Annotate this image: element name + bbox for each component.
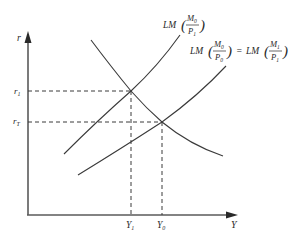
x-axis-arrow-icon xyxy=(226,212,238,219)
svg-text:LM: LM xyxy=(245,46,260,56)
svg-text:P0: P0 xyxy=(214,52,223,63)
svg-text:): ) xyxy=(226,43,232,60)
is-lm-diagram: r Y r1 rT Y1 Y0 LM ( M0 P1 ) xyxy=(0,0,298,242)
y-axis-label: r xyxy=(17,32,21,43)
svg-text:LM: LM xyxy=(162,20,177,30)
lm-upper-label: LM ( M0 P1 ) xyxy=(162,13,205,37)
svg-text:P1: P1 xyxy=(187,26,196,37)
is-curve xyxy=(91,40,223,156)
svg-text:): ) xyxy=(199,17,205,34)
guide-lines xyxy=(28,91,162,215)
r1-label: r1 xyxy=(14,86,21,97)
svg-text:M0: M0 xyxy=(186,13,197,24)
Y1-label: Y1 xyxy=(126,220,134,231)
rT-label: rT xyxy=(13,116,21,127)
svg-text:M1: M1 xyxy=(269,39,280,50)
lm-curve-upper xyxy=(64,35,180,154)
lm-curve-lower xyxy=(78,66,226,175)
svg-text:): ) xyxy=(282,43,288,60)
svg-text:LM: LM xyxy=(189,46,204,56)
Y0-label: Y0 xyxy=(157,220,165,231)
svg-text:P1: P1 xyxy=(270,52,279,63)
svg-text:M0: M0 xyxy=(213,39,224,50)
y-axis-arrow-icon xyxy=(25,31,32,43)
svg-text:=: = xyxy=(236,46,242,56)
lm-lower-label: LM ( M0 P0 ) = LM ( M1 P1 ) xyxy=(189,39,288,63)
x-axis-label: Y xyxy=(231,219,238,230)
